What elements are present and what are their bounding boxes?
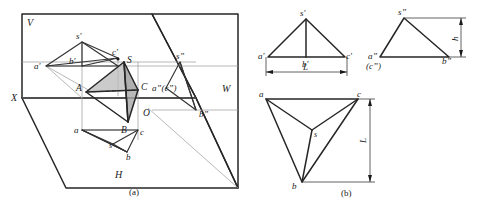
label-a-top-a: a — [74, 125, 79, 135]
label-v-plane: V — [27, 17, 35, 28]
label-b-side-dim-h: h — [450, 36, 460, 41]
label-x-axis: X — [10, 92, 18, 103]
label-h-plane: H — [114, 169, 123, 180]
label-b-s-prime: s' — [300, 8, 307, 18]
label-s-prime-a: s' — [76, 31, 83, 41]
label-b-a-top: a — [259, 89, 264, 99]
label-s-dprime-a: s” — [176, 51, 185, 61]
label-b-dprime-a: b” — [199, 109, 209, 119]
projection-drawing: V W H X O S A B C s' a' b' c' s a b c s”… — [0, 0, 482, 204]
label-b-s-dprime: s” — [398, 7, 407, 17]
label-b-a-dprime: a” — [368, 51, 378, 61]
label-point-C: C — [141, 82, 148, 92]
label-b-c-dprime: (c”) — [366, 61, 381, 71]
caption-a: (a) — [129, 187, 139, 197]
label-point-A: A — [75, 83, 82, 93]
front-view-projection-a — [46, 42, 120, 66]
label-b-a-prime: a' — [258, 51, 266, 61]
panel-b-group — [266, 18, 466, 182]
label-point-S: S — [127, 55, 132, 65]
tetrahedron-solid — [86, 62, 138, 122]
label-w-plane: W — [222, 83, 232, 94]
label-b-top-a: b — [126, 152, 131, 162]
label-b-front-dim-L: L — [302, 62, 308, 72]
label-origin-o: O — [143, 108, 150, 118]
label-b-s-top: s — [314, 130, 317, 139]
label-b-c-prime: c' — [346, 51, 353, 61]
label-b-top-dim-L: L — [358, 138, 368, 144]
label-b-b-top: b — [292, 181, 297, 191]
caption-b: (b) — [341, 188, 352, 198]
label-b-b-dprime: b” — [442, 56, 452, 66]
label-b-prime-a: b' — [69, 56, 77, 66]
diagram-canvas: V W H X O S A B C s' a' b' c' s a b c s”… — [0, 0, 482, 204]
label-c-top-a: c — [140, 127, 144, 137]
label-a-prime-a: a' — [34, 61, 42, 71]
label-ac-dprime-a: a”(c”) — [152, 83, 177, 93]
label-c-prime-a: c' — [112, 47, 119, 57]
label-b-c-top: c — [357, 89, 361, 99]
label-s-top-a: s — [109, 141, 112, 150]
label-point-B: B — [121, 125, 127, 135]
